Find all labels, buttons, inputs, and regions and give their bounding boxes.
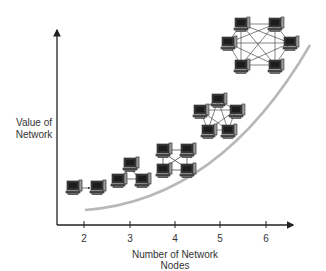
network-4-nodes (156, 143, 196, 178)
y-axis-label-line1: Value of (14, 117, 54, 129)
y-axis-label-line2: Network (14, 129, 54, 141)
network-5-nodes (193, 93, 245, 139)
y-axis-label: Value of Network (14, 117, 54, 141)
x-axis-label: Number of Network Nodes (120, 249, 230, 271)
x-tick-label-3: 3 (127, 233, 133, 244)
x-tick-label-5: 5 (217, 233, 223, 244)
network-3-nodes (111, 157, 151, 188)
network-2-nodes (66, 180, 106, 195)
x-tick-label-2: 2 (81, 233, 87, 244)
x-tick-label-6: 6 (263, 233, 269, 244)
x-tick-label-4: 4 (172, 233, 178, 244)
network-6-nodes (221, 17, 299, 74)
